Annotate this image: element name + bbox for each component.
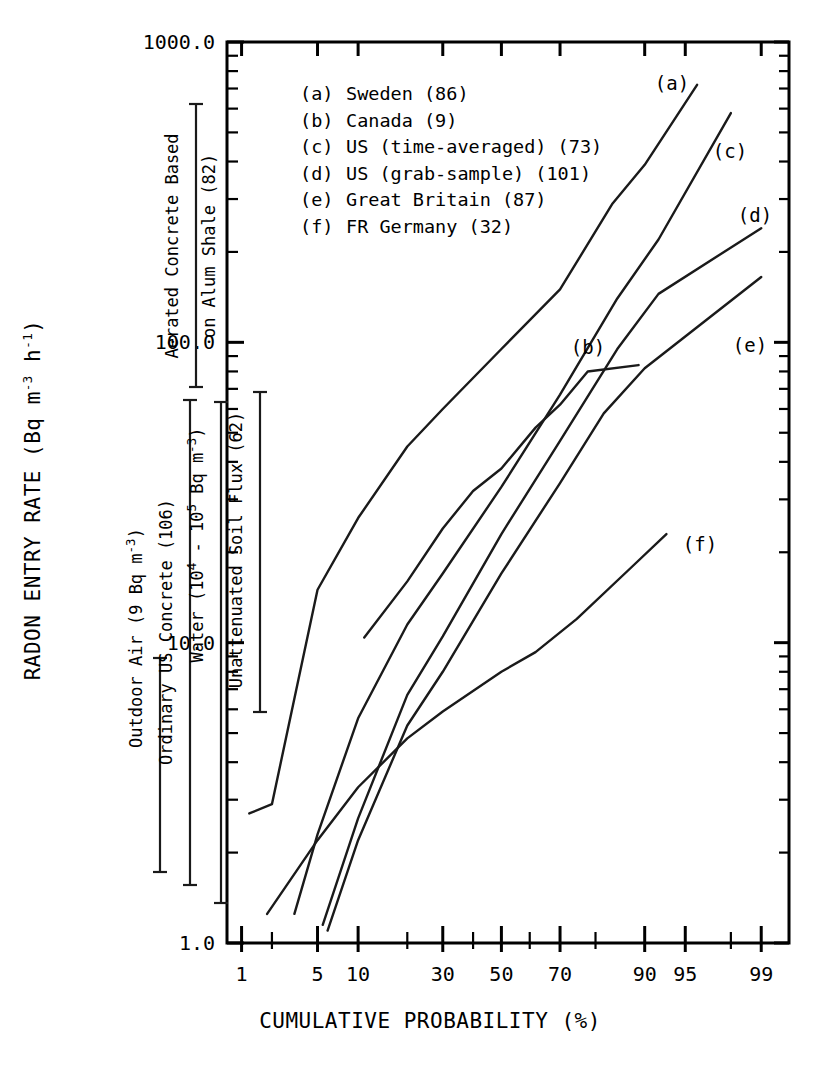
x-tick-label: 99 (749, 962, 773, 986)
chart-canvas: 1.010.0100.01000.0 1510305070909599 (a)(… (0, 0, 815, 1066)
annotation-ordinary-us-concrete-text: Ordinary US Concrete (106) (156, 499, 176, 765)
annotation-water-sup-a: 4 (184, 563, 199, 571)
legend-key-e: (e) (300, 189, 333, 210)
annotation-outdoor-air-sup: -3 (123, 538, 138, 553)
legend-label-c: US (time-averaged) (73) (346, 136, 602, 157)
annotation-water-a: Water (10 (187, 570, 207, 662)
annotation-water-d: ) (187, 428, 207, 438)
legend-key-a: (a) (300, 83, 333, 104)
y-axis-title-sup2: -1 (20, 333, 35, 349)
x-tick-label: 95 (673, 962, 697, 986)
legend-label-f: FR Germany (32) (346, 216, 513, 237)
annotation-outdoor-air-main: Outdoor Air (9 Bq m (126, 553, 146, 747)
annotation-unattenuated-soil-flux: Unattenuated Soil Flux (62) (226, 412, 246, 688)
annotation-water-b: - 10 (187, 512, 207, 563)
y-axis-title-end: ) (21, 320, 45, 333)
annotation-water-text: Water (104 - 105 Bq m-3) (184, 428, 207, 663)
y-axis-title-sup1: -3 (20, 375, 35, 391)
x-axis-tick-labels: 1510305070909599 (236, 962, 774, 986)
curve-label-b: (b) (571, 336, 605, 358)
annotation-outdoor-air-tail: ) (126, 528, 146, 538)
legend-label-d: US (grab-sample) (101) (346, 163, 591, 184)
annotation-water-c: Bq m (187, 453, 207, 504)
legend-label-a: Sweden (86) (346, 83, 469, 104)
y-axis-title: RADON ENTRY RATE (Bq m-3 h-1) (20, 320, 45, 681)
x-tick-label: 1 (236, 962, 248, 986)
x-tick-label: 10 (346, 962, 370, 986)
legend-key-f: (f) (300, 216, 333, 237)
x-tick-label: 70 (548, 962, 572, 986)
curve-label-c: (c) (713, 140, 747, 162)
x-axis-title: CUMULATIVE PROBABILITY (%) (259, 1009, 601, 1033)
annotation-water: Water (104 - 105 Bq m-3) (184, 428, 207, 663)
legend-label-b: Canada (9) (346, 110, 457, 131)
curve-label-a: (a) (655, 72, 689, 94)
curve-label-d: (d) (738, 204, 772, 226)
y-tick-label: 1000.0 (143, 30, 215, 54)
legend-key-b: (b) (300, 110, 333, 131)
annotation-ordinary-us-concrete: Ordinary US Concrete (106) (156, 499, 176, 765)
x-tick-label: 5 (312, 962, 324, 986)
curve-label-e: (e) (733, 334, 767, 356)
annotation-water-sup-c: -3 (184, 438, 199, 453)
y-axis-title-mid: h (21, 349, 45, 375)
y-tick-label: 1.0 (179, 931, 215, 955)
svg-text:RADON ENTRY RATE (Bq m-3 h-1): RADON ENTRY RATE (Bq m-3 h-1) (20, 320, 45, 681)
curve-label-f: (f) (683, 533, 717, 555)
annotation-water-sup-b: 5 (184, 504, 199, 512)
annotation-aerated-concrete-line1: Aerated Concrete Based (162, 133, 182, 358)
annotation-outdoor-air: Outdoor Air (9 Bq m-3) (123, 528, 146, 748)
x-tick-label: 30 (431, 962, 455, 986)
legend-label-e: Great Britain (87) (346, 189, 546, 210)
legend-key-d: (d) (300, 163, 333, 184)
y-axis-title-main: RADON ENTRY RATE (Bq m (21, 391, 45, 680)
x-tick-label: 50 (489, 962, 513, 986)
annotation-outdoor-air-text: Outdoor Air (9 Bq m-3) (123, 528, 146, 748)
legend-key-c: (c) (300, 136, 333, 157)
annotation-unattenuated-soil-flux-text: Unattenuated Soil Flux (62) (226, 412, 246, 688)
annotation-aerated-concrete-line2: on Alum Shale (82) (199, 154, 219, 338)
radon-entry-rate-figure: 1.010.0100.01000.0 1510305070909599 (a)(… (0, 0, 815, 1066)
x-tick-label: 90 (633, 962, 657, 986)
